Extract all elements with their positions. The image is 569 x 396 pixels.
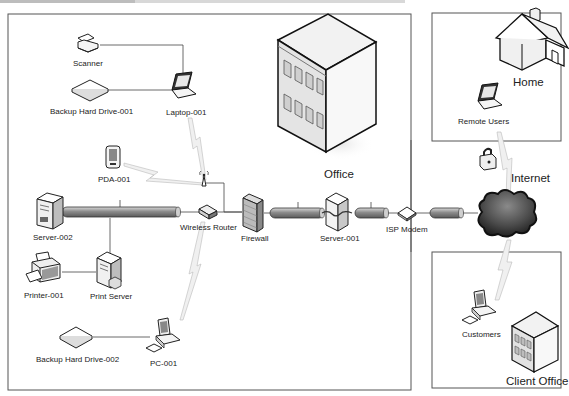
link-scanner-laptop [100, 45, 183, 78]
lock-icon [480, 149, 496, 170]
building-icon [278, 14, 376, 160]
firewall-label: Firewall [241, 234, 269, 243]
printer-001-label: Printer-001 [24, 291, 64, 300]
home-label: Home [513, 76, 544, 88]
wireless-router-label: Wireless Router [180, 223, 237, 232]
scanner-label: Scanner [73, 59, 103, 68]
internet-label: Internet [511, 172, 551, 184]
server-002-label: Server-002 [33, 233, 73, 242]
firewall-icon[interactable] [243, 194, 263, 232]
ethernet-bus [62, 207, 181, 217]
ethernet-bus [270, 208, 325, 218]
scanner-icon[interactable] [78, 34, 98, 52]
house-icon [496, 8, 568, 70]
client-office-label: Client Office [506, 375, 568, 387]
server-icon[interactable] [322, 193, 352, 231]
pc-icon[interactable] [146, 318, 180, 352]
isp-modem-label: ISP Modem [386, 225, 428, 234]
wireless-antenna-pc [180, 222, 205, 320]
wireless-pda-antenna [124, 163, 203, 185]
laptop-icon[interactable] [172, 72, 196, 98]
server-001-label: Server-001 [320, 234, 360, 243]
backup-hd-001-label: Backup Hard Drive-001 [50, 107, 134, 116]
pda-icon[interactable] [106, 146, 120, 168]
office-label: Office [324, 168, 354, 180]
hard-drive-icon[interactable] [60, 327, 92, 348]
customers-label: Customers [462, 330, 501, 339]
pc-icon[interactable] [462, 290, 496, 324]
printer-icon[interactable] [26, 252, 60, 282]
router-icon[interactable] [199, 205, 217, 219]
hard-drive-icon[interactable] [72, 80, 108, 101]
server-icon[interactable] [37, 193, 63, 229]
ethernet-bus [355, 208, 389, 218]
wireless-laptop-antenna [188, 118, 206, 180]
network-diagram: Scanner Backup Hard Drive-001 Laptop-001… [0, 0, 569, 396]
modem-icon[interactable] [398, 207, 416, 221]
building-icon [512, 312, 558, 372]
pc-001-label: PC-001 [150, 359, 178, 368]
print-server-label: Print Server [90, 292, 133, 301]
ethernet-bus [430, 208, 464, 218]
pda-001-label: PDA-001 [98, 175, 131, 184]
wireless-cloud-customers [495, 240, 512, 300]
laptop-001-label: Laptop-001 [166, 108, 207, 117]
server-icon[interactable] [97, 252, 121, 289]
remote-users-label: Remote Users [458, 117, 509, 126]
cloud-icon [478, 190, 536, 237]
backup-hd-002-label: Backup Hard Drive-002 [36, 355, 120, 364]
laptop-icon[interactable] [478, 83, 502, 109]
